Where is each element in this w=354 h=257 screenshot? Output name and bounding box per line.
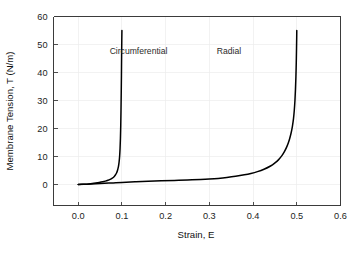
- chart-figure: 0.00.10.20.30.40.50.6 0102030405060 Circ…: [0, 0, 354, 257]
- x-tick-label: 0.3: [203, 211, 216, 221]
- x-tick-label: 0.4: [247, 211, 260, 221]
- x-tick-label: 0.1: [116, 211, 129, 221]
- y-axis-title: Membrane Tension, T (N/m): [4, 52, 15, 171]
- x-axis-title: Strain, E: [178, 229, 215, 240]
- x-tick-label: 0.6: [334, 211, 347, 221]
- x-tick-label: 0.5: [290, 211, 303, 221]
- x-tick-label: 0.0: [72, 211, 85, 221]
- y-tick-label: 50: [37, 40, 47, 50]
- y-tick-label: 20: [37, 124, 47, 134]
- curve-label-radial: Radial: [217, 46, 241, 56]
- curve-label-circumferential: Circumferential: [110, 46, 168, 56]
- y-tick-label: 30: [37, 96, 47, 106]
- y-tick-label: 10: [37, 152, 47, 162]
- x-tick-label: 0.2: [159, 211, 172, 221]
- y-tick-label: 40: [37, 68, 47, 78]
- membrane-tension-strain-chart: 0.00.10.20.30.40.50.6 0102030405060 Circ…: [0, 0, 354, 257]
- y-tick-label: 60: [37, 12, 47, 22]
- y-tick-label: 0: [42, 180, 47, 190]
